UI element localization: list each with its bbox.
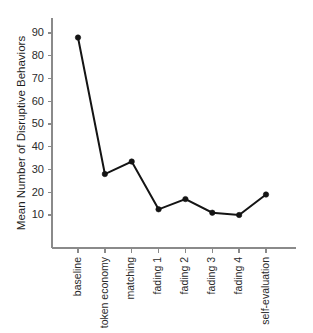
data-point-marker [263, 192, 268, 197]
x-axis-tick-label: fading 4 [232, 257, 244, 295]
x-axis-tick-label: fading 1 [151, 257, 163, 295]
data-point-marker [210, 210, 215, 215]
x-axis-tick-label: fading 3 [205, 257, 217, 295]
y-axis-tick-label: 60 [32, 95, 44, 107]
y-axis-tick-label: 70 [32, 72, 44, 84]
data-point-marker [156, 207, 161, 212]
data-point-marker [236, 212, 241, 217]
y-axis-tick-label: 90 [32, 26, 44, 38]
x-axis-tick-label: self-evaluation [259, 257, 271, 325]
y-axis-tick-label: 20 [32, 186, 44, 198]
data-point-marker [102, 171, 107, 176]
data-point-marker [183, 196, 188, 201]
line-chart: 102030405060708090 baselinetoken economy… [0, 0, 313, 333]
y-axis-tick-label: 80 [32, 49, 44, 61]
y-axis-tick-label: 40 [32, 140, 44, 152]
y-axis-title: Mean Number of Disruptive Behaviors [15, 36, 27, 231]
data-point-marker [75, 35, 80, 40]
y-axis-tick-label: 10 [32, 208, 44, 220]
x-axis-tick-label: token economy [98, 256, 110, 328]
y-axis-labels: 102030405060708090 [32, 26, 44, 220]
chart-container: 102030405060708090 baselinetoken economy… [0, 0, 313, 333]
x-axis-tick-label: fading 2 [178, 257, 190, 295]
y-axis-tick-label: 50 [32, 117, 44, 129]
data-point-marker [129, 159, 134, 164]
y-axis-tick-label: 30 [32, 163, 44, 175]
x-axis-tick-label: baseline [71, 257, 83, 296]
x-axis-tick-label: matching [124, 257, 136, 300]
